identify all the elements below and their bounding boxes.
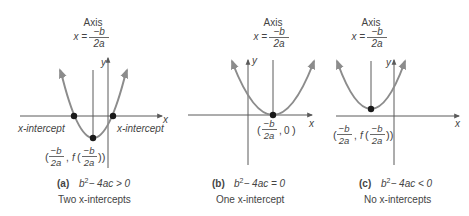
panel-a: Axis x = −b 2a x y x-intercept x-interce…: [17, 17, 169, 205]
vertex-label: ( −b 2a , 0 ): [257, 118, 296, 141]
caption-a-description: Two x-intercepts: [58, 194, 131, 205]
svg-text:0: 0: [284, 125, 290, 136]
x-intercept-point-left: [71, 113, 77, 119]
svg-text:b2− 4ac < 0: b2− 4ac < 0: [381, 177, 433, 189]
x-axis-label: x: [308, 118, 315, 129]
axis-formula-numerator: −b: [371, 26, 383, 37]
svg-text:(: (: [333, 129, 337, 141]
svg-text:): ): [292, 124, 296, 136]
y-axis-label: y: [100, 57, 107, 68]
axis-formula-denominator: 2a: [92, 38, 105, 49]
axis-formula-numerator: −b: [93, 26, 105, 37]
axis-formula-denominator: 2a: [272, 38, 285, 49]
curve-arrow-right-icon: [402, 61, 405, 69]
svg-text:(: (: [45, 151, 49, 163]
y-axis-label: y: [385, 57, 392, 68]
svg-text:2a: 2a: [371, 135, 383, 146]
curve-arrow-left-icon: [337, 61, 340, 69]
svg-text:2a: 2a: [83, 157, 95, 168]
panel-b: Axis x = −b 2a x y ( −b 2a , 0 ) (b) b2−…: [188, 17, 315, 205]
svg-text:)): )): [98, 151, 105, 163]
curve-arrow-right-icon: [124, 70, 127, 78]
vertex-point: [368, 106, 374, 112]
x-intercept-label-right: x-intercept: [116, 123, 165, 134]
svg-text:2a: 2a: [263, 130, 275, 141]
svg-text:,: ,: [66, 152, 69, 163]
svg-text:(a): (a): [57, 178, 69, 189]
axis-formula-numerator: −b: [273, 26, 285, 37]
vertex-label: ( −b 2a , f ( −b 2a )): [333, 123, 393, 146]
y-axis-label: y: [251, 55, 258, 66]
svg-text:2a: 2a: [338, 135, 350, 146]
x-intercept-label-left: x-intercept: [17, 123, 66, 134]
quadratic-discriminant-diagram: Axis x = −b 2a x y x-intercept x-interce…: [0, 0, 469, 216]
svg-text:(: (: [257, 124, 261, 136]
svg-text:(b): (b): [212, 178, 225, 189]
svg-text:,: ,: [279, 125, 282, 136]
svg-text:(c): (c): [359, 178, 371, 189]
caption-c: (c) b2− 4ac < 0 No x-intercepts: [359, 177, 433, 205]
x-intercept-point-right: [110, 113, 116, 119]
svg-text:−b: −b: [51, 145, 62, 156]
svg-text:b2− 4ac = 0: b2− 4ac = 0: [234, 177, 286, 189]
svg-text:,: ,: [354, 130, 357, 141]
svg-text:2a: 2a: [50, 157, 62, 168]
svg-text:b2− 4ac > 0: b2− 4ac > 0: [79, 177, 131, 189]
curve-arrow-left-icon: [232, 61, 235, 69]
svg-text:−b: −b: [372, 123, 383, 134]
axis-formula-lhs: x =: [252, 31, 267, 42]
panel-c: Axis x = −b 2a x y ( −b 2a , f ( −b 2a )…: [333, 17, 461, 205]
caption-b: (b) b2− 4ac = 0 One x-intercept: [212, 177, 286, 205]
caption-b-description: One x-intercept: [216, 194, 285, 205]
svg-text:f: f: [72, 152, 76, 163]
vertex-label: ( −b 2a , f ( −b 2a )): [45, 145, 105, 168]
axis-formula-denominator: 2a: [370, 38, 383, 49]
axis-formula-lhs: x =: [72, 31, 87, 42]
svg-text:(: (: [365, 129, 369, 141]
svg-text:−b: −b: [264, 118, 275, 129]
curve-arrow-left-icon: [60, 70, 63, 78]
x-axis-label: x: [454, 118, 461, 129]
svg-text:−b: −b: [339, 123, 350, 134]
svg-text:)): )): [386, 129, 393, 141]
caption-c-description: No x-intercepts: [364, 194, 431, 205]
caption-a: (a) b2− 4ac > 0 Two x-intercepts: [57, 177, 131, 205]
svg-text:(: (: [77, 151, 81, 163]
svg-text:−b: −b: [84, 145, 95, 156]
axis-formula-lhs: x =: [350, 31, 365, 42]
curve-arrow-right-icon: [311, 61, 314, 69]
svg-text:f: f: [360, 130, 364, 141]
vertex-point: [90, 135, 96, 141]
